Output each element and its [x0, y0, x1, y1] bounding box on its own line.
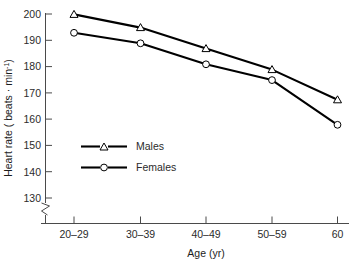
x-tick-label-40-49: 40–49: [191, 228, 220, 240]
y-axis-title-suffix: ): [2, 59, 14, 63]
y-tick-group: [46, 14, 53, 198]
data-point-females-20-29: [71, 29, 78, 36]
x-tick-group: [74, 217, 338, 224]
y-tick-label-160: 160: [23, 113, 41, 125]
x-tick-label-60: 60: [332, 228, 344, 240]
y-tick-label-150: 150: [23, 139, 41, 151]
chart-page: 200 190 180 170 160 150 140 130 20–29 30…: [0, 0, 357, 263]
y-tick-label-180: 180: [23, 60, 41, 72]
legend-item-males: Males: [81, 140, 164, 152]
heart-rate-line-chart: 200 190 180 170 160 150 140 130 20–29 30…: [0, 0, 357, 263]
legend-marker-triangle-icon: [100, 143, 108, 150]
legend: Males Females: [81, 140, 176, 173]
y-tick-label-200: 200: [23, 8, 41, 20]
y-axis-title-main: Heart rate ( beats · min: [2, 69, 14, 177]
legend-item-females: Females: [81, 161, 176, 173]
data-point-females-30-39: [137, 40, 144, 47]
y-tick-label-140: 140: [23, 166, 41, 178]
y-tick-label-130: 130: [23, 192, 41, 204]
legend-label-females: Females: [136, 161, 176, 173]
x-tick-label-50-59: 50–59: [257, 228, 286, 240]
x-tick-label-20-29: 20–29: [59, 228, 88, 240]
data-point-females-50-59: [269, 77, 276, 84]
y-axis-title: Heart rate ( beats · min-1): [2, 59, 14, 177]
y-tick-label-190: 190: [23, 34, 41, 46]
data-point-females-60: [334, 121, 341, 128]
legend-marker-circle-icon: [101, 164, 108, 171]
legend-label-males: Males: [136, 140, 164, 152]
x-axis-title: Age (yr): [187, 247, 224, 259]
data-point-females-40-49: [203, 61, 210, 68]
x-tick-label-30-39: 30–39: [126, 228, 155, 240]
series-line-males: [74, 14, 338, 99]
y-axis-break-icon: [42, 203, 50, 215]
series-markers-males: [70, 10, 342, 102]
svg-text:Heart rate ( beats · min-1): Heart rate ( beats · min-1): [2, 59, 14, 177]
y-tick-label-170: 170: [23, 87, 41, 99]
